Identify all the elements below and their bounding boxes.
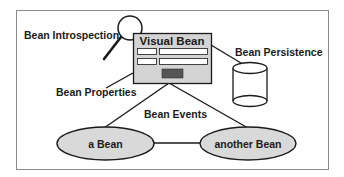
a-bean-label: a Bean (88, 138, 122, 150)
field-input-box (160, 59, 208, 65)
introspection-label: Bean Introspection (24, 29, 119, 41)
events-label: Bean Events (144, 108, 207, 120)
bean-diagram: Visual Bean a Bean another Bean Bean Int… (0, 0, 344, 177)
field-input-box (160, 49, 208, 55)
field-label-box (138, 49, 157, 55)
a-bean-node: a Bean (57, 127, 154, 160)
properties-label: Bean Properties (56, 86, 137, 98)
field-label-box (138, 59, 157, 65)
persistence-label: Bean Persistence (235, 46, 323, 58)
database-cylinder-icon (233, 63, 267, 107)
visual-bean-label: Visual Bean (140, 35, 205, 47)
another-bean-label: another Bean (214, 138, 281, 150)
visual-bean-button (162, 69, 183, 78)
another-bean-node: another Bean (200, 127, 296, 160)
visual-bean-node: Visual Bean (134, 34, 212, 84)
